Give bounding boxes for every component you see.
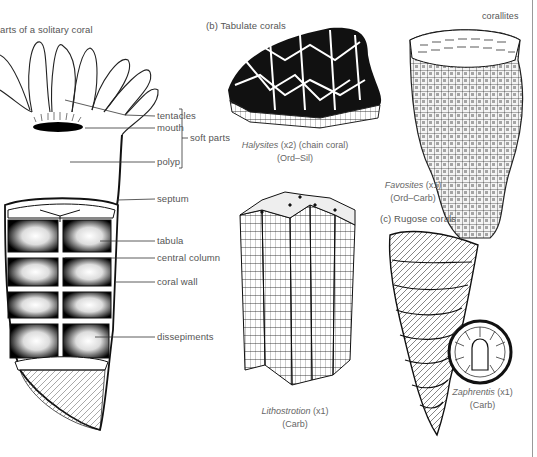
zaphrentis-section — [449, 321, 511, 383]
label-central-column: central column — [157, 252, 220, 263]
halysites-common: (chain coral) — [299, 140, 349, 150]
page-edge-divider — [532, 0, 533, 457]
solitary-coral-section — [5, 198, 118, 430]
label-polyp: polyp — [157, 156, 180, 167]
halysites-scale: (x2) — [281, 140, 297, 150]
caption-favosites: Favosites (x1) — [378, 180, 448, 190]
zaphrentis-scale: (x1) — [497, 387, 513, 397]
halysites-name: Halysites — [242, 140, 279, 150]
mouth-shape — [33, 122, 83, 132]
panel-b-title: (b) Tabulate corals — [206, 20, 286, 31]
label-septum: septum — [157, 193, 189, 204]
lithostrotion-drawing — [240, 192, 355, 385]
lithostrotion-scale: (x1) — [313, 406, 329, 416]
favosites-age: (Ord–Carb) — [378, 193, 448, 203]
label-coral-wall: coral wall — [157, 276, 198, 287]
label-mouth: mouth — [157, 122, 184, 133]
favosites-name: Favosites — [385, 180, 424, 190]
panel-a-title: arts of a solitary coral — [0, 24, 93, 35]
halysites-drawing — [228, 28, 381, 128]
caption-zaphrentis: Zaphrentis (x1) — [445, 387, 520, 397]
lithostrotion-name: Lithostrotion — [261, 406, 310, 416]
favosites-drawing — [410, 30, 523, 238]
caption-lithostrotion: Lithostrotion (x1) — [250, 406, 340, 416]
tentacles-drawing — [0, 42, 158, 135]
halysites-age: (Ord–Sil) — [225, 153, 365, 163]
lithostrotion-age: (Carb) — [250, 419, 340, 429]
zaphrentis-age: (Carb) — [445, 400, 520, 410]
label-tentacles: tentacles — [157, 110, 196, 121]
zaphrentis-name: Zaphrentis — [452, 387, 495, 397]
label-corallites: corallites — [482, 11, 519, 21]
panel-c-title: (c) Rugose corals — [380, 213, 456, 224]
label-dissepiments: dissepiments — [157, 331, 214, 342]
favosites-scale: (x1) — [426, 180, 442, 190]
caption-halysites: Halysites (x2) (chain coral) — [225, 140, 365, 150]
label-tabula: tabula — [157, 235, 183, 246]
